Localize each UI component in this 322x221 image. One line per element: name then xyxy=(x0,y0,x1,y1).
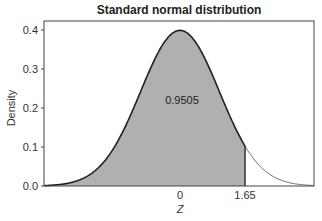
y-tick-label: 0.0 xyxy=(23,180,38,192)
y-tick-label: 0.1 xyxy=(23,141,38,153)
y-tick-label: 0.2 xyxy=(23,102,38,114)
x-tick-label: 0 xyxy=(177,189,183,201)
density-curve-tail xyxy=(245,146,314,185)
y-tick-label: 0.4 xyxy=(23,24,38,36)
chart-title: Standard normal distribution xyxy=(97,3,262,17)
normal-distribution-chart: Standard normal distribution 0.00.10.20.… xyxy=(0,0,322,221)
x-axis-label: Z xyxy=(176,203,185,215)
area-annotation: 0.9505 xyxy=(165,94,199,106)
shaded-area xyxy=(44,30,245,186)
y-tick-label: 0.3 xyxy=(23,63,38,75)
y-axis-label: Density xyxy=(5,89,17,126)
plot-area: 0.00.10.20.30.401.65 xyxy=(23,21,314,201)
x-tick-label: 1.65 xyxy=(234,189,255,201)
